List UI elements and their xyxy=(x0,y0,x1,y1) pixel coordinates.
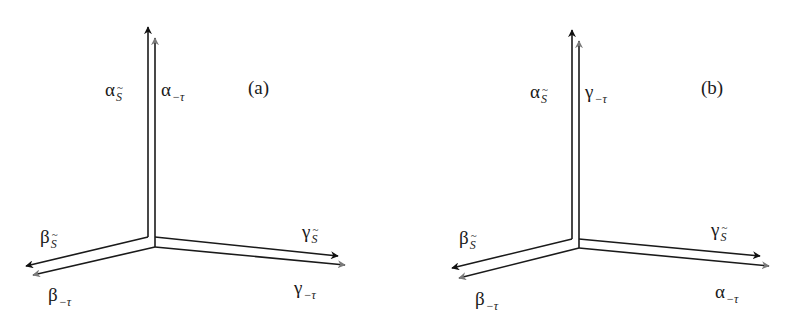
label-left-gray: β−τ xyxy=(475,289,498,308)
label-left-black: βS xyxy=(459,228,476,247)
label-right-gray: γ−τ xyxy=(294,278,316,297)
panel-tag-a: (a) xyxy=(248,77,269,99)
label-vertical-gray: γ−τ xyxy=(585,82,607,101)
label-left-black: βS xyxy=(40,227,57,246)
gamma-tau-axis-arrow xyxy=(155,247,345,265)
axes-diagram-a xyxy=(0,0,395,323)
panel-a: αS α−τ (a) βS β−τ γS γ−τ xyxy=(0,0,395,323)
panel-tag-b: (b) xyxy=(701,77,723,99)
panel-b: αS γ−τ (b) βS β−τ γS α−τ xyxy=(395,0,790,323)
gamma-s-axis-arrow xyxy=(579,239,760,256)
alpha-tau-axis-arrow xyxy=(579,248,769,266)
axes-diagram-b xyxy=(395,0,790,323)
label-right-black: γS xyxy=(711,220,726,239)
label-left-gray: β−τ xyxy=(48,285,71,304)
label-vertical-black: αS xyxy=(105,80,122,99)
label-right-gray: α−τ xyxy=(715,282,738,301)
label-vertical-gray: α−τ xyxy=(161,80,184,99)
label-right-black: γS xyxy=(302,222,317,241)
label-vertical-black: αS xyxy=(530,82,547,101)
beta-tau-axis-arrow xyxy=(33,247,155,275)
